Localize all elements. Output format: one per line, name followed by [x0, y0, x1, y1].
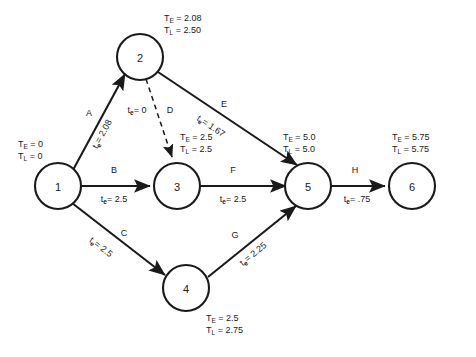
- node-3-times: TE = 2.5 TL = 2.5: [180, 132, 213, 155]
- node-2[interactable]: 2: [117, 34, 163, 80]
- node-5-te: TE = 5.0: [283, 132, 316, 143]
- edge-F-name: F: [230, 165, 236, 175]
- edge-A-duration-value: = 2.08: [93, 118, 114, 145]
- node-6-tl: TL = 5.75: [392, 144, 429, 155]
- edge-F: F te= 2.5: [200, 165, 286, 205]
- edge-D-duration-value: = 0: [134, 105, 147, 115]
- node-6-te-value: = 5.75: [402, 132, 430, 142]
- edge-H-name: H: [352, 165, 359, 175]
- edge-F-duration: te= 2.5: [220, 194, 246, 205]
- node-3[interactable]: 3: [154, 163, 200, 209]
- node-2-tl-value: = 2.50: [173, 25, 201, 35]
- pert-network-diagram: A te= 2.08 B te= 2.5 C te= 2.5 D te= 0 E…: [0, 0, 476, 357]
- node-2-times: TE = 2.08 TL = 2.50: [164, 13, 202, 36]
- edge-D-name: D: [167, 105, 174, 115]
- node-6-times: TE = 5.75 TL = 5.75: [392, 132, 430, 155]
- node-2-tl: TL = 2.50: [164, 25, 201, 36]
- node-4-tl-value: = 2.75: [215, 325, 243, 335]
- node-1-times: TE = 0 TL = 0: [18, 139, 43, 162]
- node-2-te: TE = 2.08: [164, 13, 202, 24]
- edge-G-line: [208, 206, 296, 277]
- node-5-times: TE = 5.0 TL = 5.0: [283, 132, 316, 155]
- edge-B-duration: te= 2.5: [101, 194, 127, 205]
- network-canvas: A te= 2.08 B te= 2.5 C te= 2.5 D te= 0 E…: [0, 0, 476, 357]
- node-6[interactable]: 6: [389, 163, 435, 209]
- node-1-te-value: = 0: [28, 139, 43, 149]
- node-3-te-value: = 2.5: [190, 132, 213, 142]
- node-5-te-value: = 5.0: [293, 132, 316, 142]
- edge-C-line: [72, 203, 165, 275]
- edge-G-name: G: [231, 230, 238, 240]
- node-4-tl: TL = 2.75: [206, 325, 243, 336]
- edge-A-line: [73, 74, 125, 170]
- node-1-label: 1: [55, 181, 61, 193]
- edge-G-duration: te= 2.25: [238, 240, 269, 268]
- edge-G: G te= 2.25: [208, 206, 296, 277]
- edge-B: B te= 2.5: [81, 165, 150, 205]
- edge-B-name: B: [111, 165, 117, 175]
- node-1-te: TE = 0: [18, 139, 43, 150]
- edge-H-duration: te= .75: [344, 194, 370, 205]
- node-1-tl: TL = 0: [18, 151, 42, 162]
- edge-D-line: [146, 79, 172, 157]
- node-3-label: 3: [174, 181, 180, 193]
- node-5[interactable]: 5: [285, 163, 331, 209]
- edge-G-duration-value: = 2.25: [242, 240, 268, 264]
- edge-E: E te= 1.67: [158, 72, 297, 165]
- node-3-tl: TL = 2.5: [180, 144, 212, 155]
- edge-A-name: A: [86, 108, 92, 118]
- node-6-te: TE = 5.75: [392, 132, 430, 143]
- node-3-te: TE = 2.5: [180, 132, 213, 143]
- edge-A: A te= 2.08: [73, 74, 125, 170]
- edge-D-duration: te= 0: [128, 105, 147, 116]
- edge-B-duration-value: = 2.5: [107, 194, 127, 204]
- edge-H: H te= .75: [331, 165, 385, 205]
- edge-C-duration-value: = 2.5: [92, 239, 114, 259]
- node-6-tl-value: = 5.75: [401, 144, 429, 154]
- node-5-label: 5: [305, 181, 311, 193]
- node-6-label: 6: [409, 181, 415, 193]
- node-1[interactable]: 1: [35, 163, 81, 209]
- edge-A-duration: te= 2.08: [90, 118, 114, 151]
- node-2-te-value: = 2.08: [174, 13, 202, 23]
- edge-E-line: [158, 72, 297, 165]
- node-1-tl-value: = 0: [27, 151, 42, 161]
- node-4-te: TE = 2.5: [206, 313, 239, 324]
- node-4[interactable]: 4: [163, 265, 209, 311]
- node-4-times: TE = 2.5 TL = 2.75: [206, 313, 243, 336]
- edge-D: D te= 0: [128, 79, 174, 157]
- edge-C-duration: te= 2.5: [87, 235, 114, 259]
- node-4-te-value: = 2.5: [216, 313, 239, 323]
- edge-E-name: E: [221, 99, 227, 109]
- edge-C: C te= 2.5: [72, 203, 165, 275]
- node-5-tl-value: = 5.0: [292, 144, 315, 154]
- node-4-label: 4: [183, 283, 189, 295]
- edge-C-name: C: [121, 228, 128, 238]
- node-2-label: 2: [137, 52, 143, 64]
- edge-H-duration-value: = .75: [350, 194, 370, 204]
- node-5-tl: TL = 5.0: [283, 144, 315, 155]
- edge-F-duration-value: = 2.5: [226, 194, 246, 204]
- node-3-tl-value: = 2.5: [189, 144, 212, 154]
